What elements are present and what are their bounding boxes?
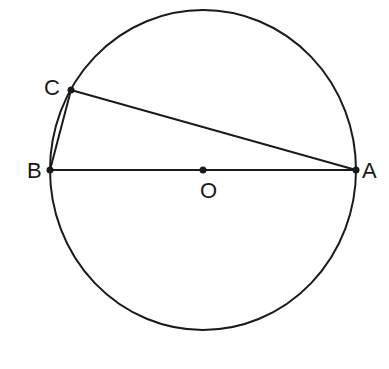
point-o — [200, 167, 207, 174]
segment-bc — [50, 90, 71, 170]
point-b — [47, 167, 54, 174]
segment-ca — [71, 90, 356, 170]
point-c — [68, 87, 75, 94]
label-a: A — [362, 158, 377, 183]
point-a — [353, 167, 360, 174]
label-c: C — [44, 75, 60, 100]
label-o: O — [200, 178, 217, 203]
geometry-diagram: A B C O — [0, 0, 389, 369]
label-b: B — [27, 158, 42, 183]
